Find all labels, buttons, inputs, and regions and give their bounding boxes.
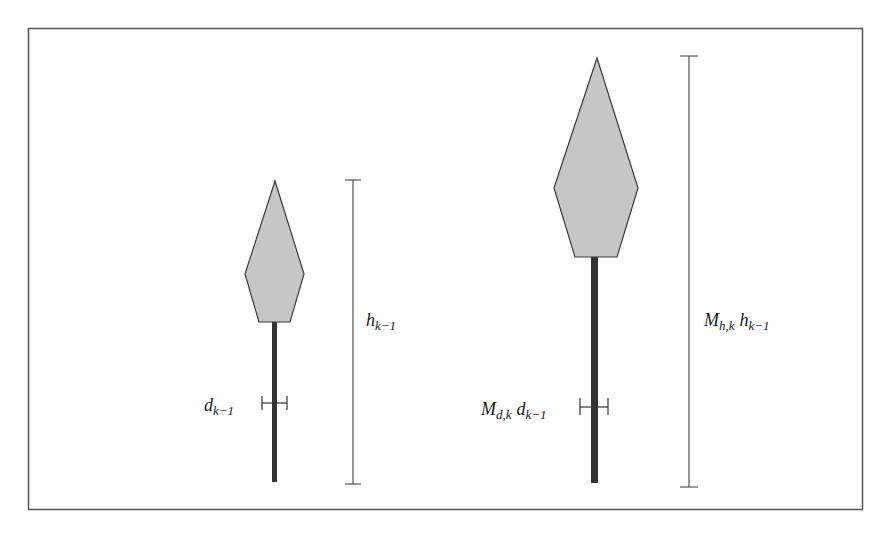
trunk — [272, 320, 277, 482]
figure-frame — [29, 29, 863, 510]
tree-previous: dk−1 — [204, 181, 304, 482]
height-marker-previous — [345, 180, 361, 484]
tree-current: Md,kdk−1 — [480, 58, 638, 483]
crown — [245, 181, 304, 322]
height-label-current: Mh,khk−1 — [703, 310, 770, 333]
tree-scaling-diagram: dk−1 hk−1 Md,kdk−1 — [0, 0, 888, 533]
diameter-label: Md,kdk−1 — [480, 399, 547, 422]
height-label-previous: hk−1 — [366, 310, 396, 333]
crown — [554, 58, 638, 257]
diameter-label: dk−1 — [204, 395, 234, 418]
height-marker-current — [680, 56, 698, 487]
trunk — [591, 255, 598, 483]
